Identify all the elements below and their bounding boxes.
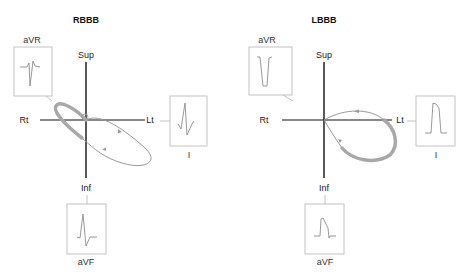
lbbb-i-label: I xyxy=(435,150,438,160)
lbbb-lead-avf: aVF xyxy=(305,195,344,267)
rbbb-avf-label: aVF xyxy=(78,257,95,267)
rbbb-title: RBBB xyxy=(73,15,99,25)
rbbb-lead-avf: aVF xyxy=(67,195,106,267)
lbbb-sup-label: Sup xyxy=(316,50,332,60)
rbbb-inf-label: Inf xyxy=(81,183,92,193)
rbbb-panel: RBBB Sup Inf Rt Lt aVR xyxy=(14,15,207,267)
lbbb-rt-label: Rt xyxy=(260,115,269,125)
arrow-icon xyxy=(354,110,359,114)
rbbb-avr-label: aVR xyxy=(23,35,41,45)
rbbb-rt-label: Rt xyxy=(20,115,29,125)
rbbb-i-label: I xyxy=(188,150,191,160)
lbbb-lead-avr: aVR xyxy=(249,35,293,101)
lbbb-lead-i: I xyxy=(407,96,455,160)
lbbb-avr-label: aVR xyxy=(258,35,276,45)
lbbb-panel: LBBB Sup Inf Rt Lt aVR xyxy=(249,15,455,267)
lbbb-inf-label: Inf xyxy=(319,183,330,193)
rbbb-sup-label: Sup xyxy=(78,50,94,60)
rbbb-vector-loop xyxy=(55,104,151,166)
lbbb-vector-loop xyxy=(324,110,395,161)
lbbb-title: LBBB xyxy=(312,15,337,25)
vectorcardiogram-figure: RBBB Sup Inf Rt Lt aVR xyxy=(0,0,467,278)
lbbb-lt-label: Lt xyxy=(396,115,404,125)
rbbb-lead-i: I xyxy=(160,96,207,160)
arrow-icon xyxy=(102,148,106,152)
lbbb-avf-label: aVF xyxy=(317,257,334,267)
rbbb-lt-label: Lt xyxy=(146,115,154,125)
rbbb-lead-avr: aVR xyxy=(14,35,52,101)
